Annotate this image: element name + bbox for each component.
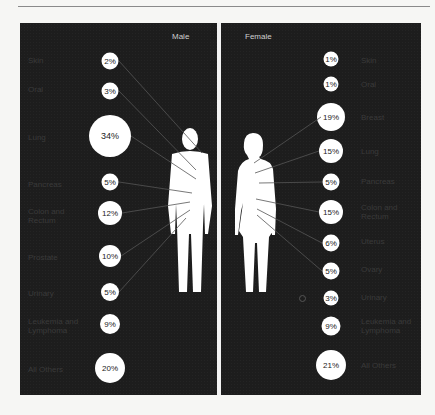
- female-panel: Female Skin 1% Oral 1% Breast 19% Lung 1…: [221, 23, 421, 395]
- male-panel: Male Skin 2% Oral 3% Lung 34% Pancreas 5…: [20, 23, 217, 395]
- top-rule: [18, 6, 430, 7]
- female-leader-lines: [221, 23, 421, 395]
- male-leader-lines: [20, 23, 217, 395]
- faint-marker: [299, 295, 306, 302]
